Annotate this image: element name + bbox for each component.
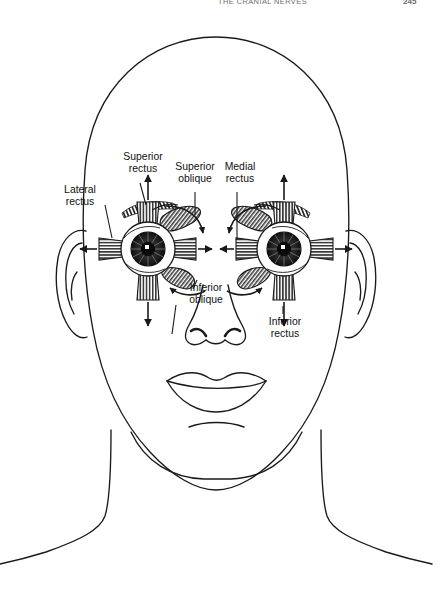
label-superior-oblique-line1: Superior xyxy=(175,161,215,172)
label-superior-rectus: Superior rectus xyxy=(123,151,163,174)
label-superior-rectus-line1: Superior xyxy=(123,151,163,162)
label-superior-rectus-line2: rectus xyxy=(129,163,157,174)
left-eye-highlight xyxy=(145,245,149,249)
label-superior-oblique-line2: oblique xyxy=(178,173,212,184)
label-lateral-rectus-line2: rectus xyxy=(66,196,94,207)
right-eye-group xyxy=(232,202,333,300)
leader-inferior-oblique-2 xyxy=(172,305,176,334)
label-medial-rectus: Medial rectus xyxy=(225,161,256,184)
label-superior-oblique: Superior oblique xyxy=(175,161,215,184)
lip-line xyxy=(167,381,266,388)
label-inferior-oblique: Inferior oblique xyxy=(189,282,223,305)
label-medial-rectus-line1: Medial xyxy=(225,161,256,172)
label-lateral-rectus: Lateral rectus xyxy=(64,184,96,207)
left-eye-group xyxy=(99,202,200,300)
label-lateral-rectus-line1: Lateral xyxy=(64,184,96,195)
right-ear-antihelix xyxy=(355,272,361,300)
right-inferior-oblique-muscle xyxy=(237,267,270,289)
clavicle-hollow xyxy=(131,432,302,479)
nostril-left xyxy=(191,329,206,336)
label-inferior-oblique-line2: oblique xyxy=(189,294,223,305)
upper-lip xyxy=(167,373,266,381)
nose-base xyxy=(206,340,225,344)
nostril-right xyxy=(225,329,240,336)
anatomy-figure: Lateral rectus Superior rectus Superior … xyxy=(0,0,445,593)
leader-lateral-rectus xyxy=(105,205,112,238)
neck-right xyxy=(321,430,432,564)
label-inferior-rectus-line1: Inferior xyxy=(269,316,302,327)
label-inferior-oblique-line1: Inferior xyxy=(190,282,223,293)
label-inferior-rectus-line2: rectus xyxy=(271,328,299,339)
label-medial-rectus-line2: rectus xyxy=(226,173,254,184)
neck-left xyxy=(0,430,111,564)
chin-crease xyxy=(189,423,244,428)
left-ear-antihelix xyxy=(71,272,77,300)
right-eye-highlight xyxy=(281,245,285,249)
page-canvas: THE CRANIAL NERVES 245 xyxy=(0,0,445,593)
label-inferior-rectus: Inferior rectus xyxy=(269,316,302,339)
